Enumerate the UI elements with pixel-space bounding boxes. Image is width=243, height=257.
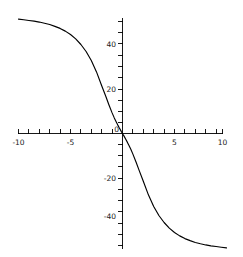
y-tick-label-20: 20 — [106, 85, 116, 94]
y-tick-label-neg20: -20 — [104, 174, 116, 183]
x-tick-label-neg10: -10 — [12, 138, 24, 147]
plot-svg: -10 -5 5 10 40 20 -20 -40 0 — [0, 0, 243, 257]
x-tick-label-5: 5 — [172, 138, 177, 147]
y-tick-label-neg40: -40 — [104, 212, 116, 221]
y-tick-label-40: 40 — [106, 40, 116, 49]
x-tick-label-10: 10 — [218, 138, 228, 147]
x-tick-label-neg5: -5 — [67, 138, 75, 147]
chart-canvas: -10 -5 5 10 40 20 -20 -40 0 — [0, 0, 243, 257]
